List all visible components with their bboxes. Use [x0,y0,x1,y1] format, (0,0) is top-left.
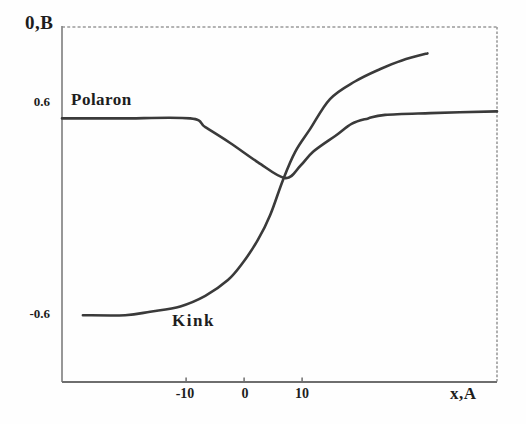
kink-curve-label: Kink [172,311,215,331]
y-tick-label-0.6: 0.6 [14,94,50,110]
chart-plot [0,0,526,424]
kink-curve [83,53,428,315]
y-tick-label-neg0.6: -0.6 [10,306,50,322]
x-tick-label-neg10: -10 [165,386,205,402]
y-axis-title: 0,B [25,12,53,34]
polaron-curve-label: Polaron [71,90,132,110]
x-tick-label-0: 0 [225,386,265,402]
x-axis-title: x,A [450,384,477,404]
polaron-curve [62,111,497,178]
figure-canvas: 0,B 0.6 -0.6 Polaron Kink -10 0 10 x,A [0,0,526,424]
x-tick-label-10: 10 [282,386,322,402]
